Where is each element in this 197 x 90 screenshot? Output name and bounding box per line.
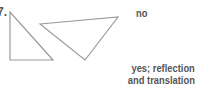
answer-yes-reflection: yes; reflection and translation [128, 62, 195, 86]
answer-line-1: yes; reflection [128, 62, 195, 74]
answer-no: no [136, 7, 147, 19]
left-triangle [10, 12, 53, 60]
right-triangle [40, 17, 118, 60]
answer-line-2: and translation [128, 74, 195, 86]
